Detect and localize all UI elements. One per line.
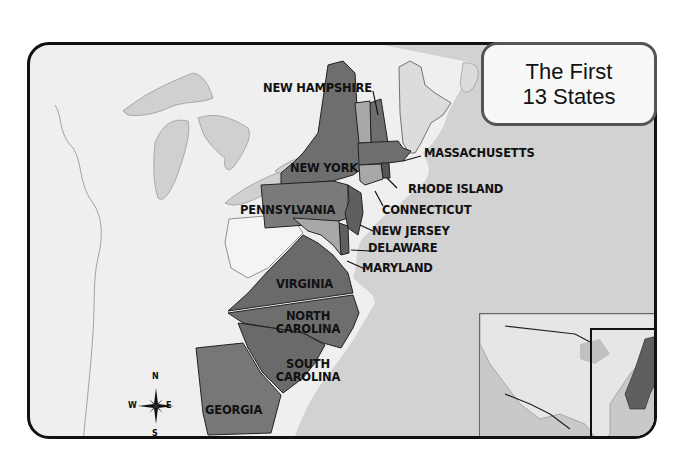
lake-huron <box>198 115 249 169</box>
label-new-york: NEW YORK <box>290 162 358 175</box>
compass-e: E <box>166 401 171 410</box>
label-north-carolina-line2: CAROLINA <box>268 323 348 336</box>
label-south-carolina: SOUTH CAROLINA <box>268 358 348 384</box>
compass-s: S <box>152 429 158 438</box>
label-georgia: GEORGIA <box>205 404 262 417</box>
label-south-carolina-line2: CAROLINA <box>268 371 348 384</box>
label-pennsylvania: PENNSYLVANIA <box>240 204 335 217</box>
title-line-1: The First <box>484 59 654 84</box>
state-new-hampshire <box>370 99 388 148</box>
lake-michigan <box>154 120 189 199</box>
mississippi-river <box>55 105 101 439</box>
lake-superior <box>123 73 213 116</box>
compass-n: N <box>152 372 159 381</box>
label-maryland: MARYLAND <box>362 262 433 275</box>
state-massachusetts <box>358 141 411 165</box>
label-virginia: VIRGINIA <box>276 278 333 291</box>
label-delaware: DELAWARE <box>368 242 437 255</box>
locator-inset-map <box>479 313 657 439</box>
label-rhode-island: RHODE ISLAND <box>408 183 503 196</box>
label-new-jersey: NEW JERSEY <box>372 225 450 238</box>
compass-w: W <box>128 401 137 410</box>
inset-map-svg <box>480 314 657 439</box>
title-box: The First 13 States <box>481 42 657 126</box>
label-massachusetts: MASSACHUSETTS <box>424 147 534 160</box>
state-connecticut <box>359 164 383 185</box>
title-line-2: 13 States <box>484 84 654 109</box>
label-new-hampshire: NEW HAMPSHIRE <box>263 82 372 95</box>
label-north-carolina: NORTH CAROLINA <box>268 310 348 336</box>
label-connecticut: CONNECTICUT <box>382 204 471 217</box>
